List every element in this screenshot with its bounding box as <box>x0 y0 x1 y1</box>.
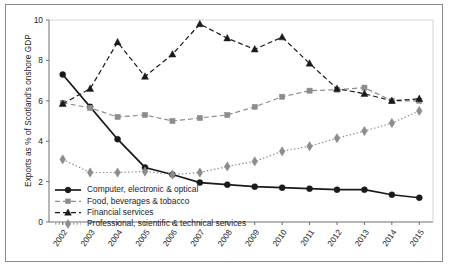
data-point-circle <box>60 72 66 78</box>
x-tick-label: 2010 <box>271 228 289 248</box>
x-tick-label: 2014 <box>381 228 399 248</box>
x-tick-label: 2005 <box>134 228 152 248</box>
legend-label: Computer, electronic & optical <box>87 184 198 194</box>
y-tick-label: 10 <box>34 15 44 25</box>
data-point-circle <box>334 187 340 193</box>
y-tick-label: 0 <box>38 217 43 227</box>
series-line <box>63 111 420 175</box>
data-point-triangle <box>114 38 121 44</box>
legend-label: Professional, scientific & technical ser… <box>87 218 246 228</box>
data-point-square <box>307 88 312 93</box>
legend-item-3[interactable]: Financial services <box>55 207 154 217</box>
x-tick-label: 2012 <box>326 228 344 248</box>
y-tick-label: 6 <box>38 96 43 106</box>
y-tick-label: 8 <box>38 55 43 65</box>
data-point-triangle <box>224 34 231 40</box>
x-tick-label: 2003 <box>79 228 97 248</box>
data-point-diamond <box>334 134 340 143</box>
data-point-square <box>170 118 175 123</box>
data-point-diamond <box>87 168 93 177</box>
data-point-square <box>280 94 285 99</box>
data-point-square <box>225 112 230 117</box>
legend-item-4[interactable]: Professional, scientific & technical ser… <box>55 218 246 228</box>
x-tick-label: 2009 <box>244 228 262 248</box>
legend-item-1[interactable]: Computer, electronic & optical <box>55 184 198 194</box>
x-tick-label: 2008 <box>216 228 234 248</box>
x-tick-label: 2011 <box>299 228 317 248</box>
data-point-circle <box>279 185 285 191</box>
data-point-diamond <box>224 162 230 171</box>
series-2 <box>60 85 422 124</box>
data-point-circle <box>252 184 258 190</box>
data-series-group <box>59 20 422 200</box>
x-tick-label: 2002 <box>52 228 70 248</box>
data-point-diamond <box>170 170 176 179</box>
data-point-square <box>142 112 147 117</box>
legend-label: Food, beverages & tobacco <box>87 196 190 206</box>
legend-label: Financial services <box>87 207 154 217</box>
data-point-triangle <box>87 85 94 91</box>
data-point-square <box>197 115 202 120</box>
data-point-circle <box>389 192 395 198</box>
chart-figure: Exports as % of Scotland's onshore GDP 0… <box>0 0 449 272</box>
data-point-square <box>88 105 93 110</box>
data-point-circle <box>65 187 71 193</box>
data-point-diamond <box>389 118 395 127</box>
series-3 <box>59 20 422 106</box>
x-tick-label: 2006 <box>161 228 179 248</box>
legend-item-2[interactable]: Food, beverages & tobacco <box>55 196 190 206</box>
y-tick-label: 2 <box>38 177 43 187</box>
y-tick-label: 4 <box>38 136 43 146</box>
line-chart-plot: 0246810 20022003200420052006200720082009… <box>0 0 449 272</box>
x-tick-label: 2015 <box>408 228 426 248</box>
data-point-diamond <box>65 219 71 228</box>
data-point-diamond <box>307 142 313 151</box>
series-line <box>63 24 420 104</box>
data-point-triangle <box>142 73 149 79</box>
data-point-diamond <box>362 126 368 135</box>
data-point-diamond <box>197 168 203 177</box>
y-axis-ticks: 0246810 <box>34 15 49 227</box>
data-point-circle <box>361 187 367 193</box>
data-point-circle <box>115 136 121 142</box>
data-point-diamond <box>252 157 258 166</box>
data-point-diamond <box>115 168 121 177</box>
data-point-square <box>252 104 257 109</box>
x-tick-label: 2013 <box>353 228 371 248</box>
data-point-diamond <box>416 106 422 115</box>
data-point-diamond <box>60 155 66 164</box>
data-point-triangle <box>196 20 203 26</box>
data-point-square <box>66 199 71 204</box>
data-point-circle <box>224 182 230 188</box>
series-4 <box>60 106 422 179</box>
x-tick-label: 2004 <box>106 228 124 248</box>
data-point-triangle <box>279 33 286 39</box>
series-1 <box>60 72 423 201</box>
data-point-diamond <box>279 147 285 156</box>
data-point-square <box>115 114 120 119</box>
data-point-circle <box>307 186 313 192</box>
x-tick-label: 2007 <box>189 228 207 248</box>
data-point-circle <box>416 195 422 201</box>
